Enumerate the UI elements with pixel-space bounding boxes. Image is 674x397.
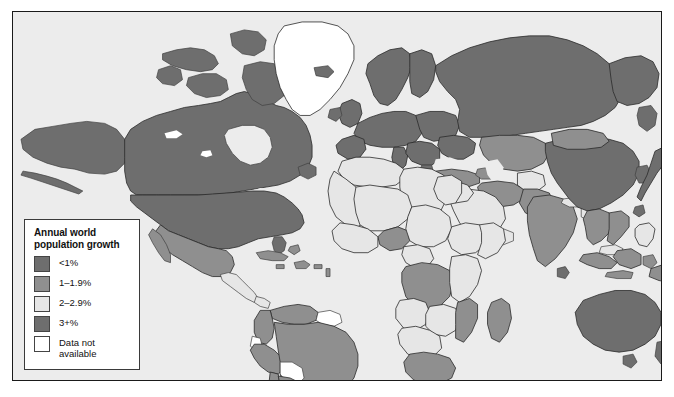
region-siberia-east bbox=[609, 56, 659, 106]
region-tasmania bbox=[623, 354, 637, 368]
region-venezuela bbox=[270, 304, 318, 324]
region-hispaniola bbox=[294, 261, 310, 269]
region-aleutians bbox=[21, 171, 83, 194]
region-mozambique bbox=[456, 298, 478, 342]
region-philippines bbox=[635, 223, 655, 247]
region-kamchatka bbox=[637, 105, 657, 131]
region-mali-niger bbox=[354, 185, 412, 231]
region-lesser-antilles bbox=[326, 269, 330, 277]
region-sulawesi bbox=[643, 255, 657, 269]
legend-item-lt1: <1% bbox=[34, 256, 131, 273]
region-indonesia-sumatra bbox=[579, 253, 617, 269]
region-bahamas bbox=[288, 245, 300, 255]
region-puerto-rico bbox=[314, 265, 322, 269]
region-iberia bbox=[336, 135, 366, 159]
baltic-sea bbox=[396, 96, 416, 110]
region-south-africa bbox=[404, 352, 456, 380]
region-australia bbox=[575, 290, 661, 352]
legend-item-3plus: 3+% bbox=[34, 316, 131, 333]
legend-item-1-19: 1–1.9% bbox=[34, 276, 131, 293]
legend-swatch-3plus bbox=[34, 316, 50, 332]
legend-label-2-29: 2–2.9% bbox=[59, 296, 91, 309]
legend-swatch-1-19 bbox=[34, 276, 50, 292]
region-new-zealand-south bbox=[655, 340, 661, 364]
region-finland bbox=[410, 50, 436, 98]
legend-label-1-19: 1–1.9% bbox=[59, 276, 91, 289]
legend-label-no-data: Data not available bbox=[59, 336, 97, 359]
region-banks-island bbox=[157, 66, 183, 86]
legend-swatch-no-data bbox=[34, 336, 50, 352]
region-victoria-island bbox=[186, 74, 228, 98]
region-ukraine bbox=[438, 135, 476, 159]
region-russia bbox=[436, 36, 621, 137]
region-ireland bbox=[328, 107, 342, 121]
region-madagascar bbox=[488, 298, 512, 342]
region-somalia bbox=[478, 223, 506, 259]
map-legend: Annual worldpopulation growth <1% 1–1.9%… bbox=[24, 219, 140, 370]
legend-swatch-2-29 bbox=[34, 296, 50, 312]
region-balkans bbox=[406, 141, 440, 165]
region-vietnam-laos bbox=[607, 211, 629, 245]
region-indonesia-java bbox=[605, 271, 633, 279]
region-ellesmere bbox=[230, 30, 266, 56]
region-cuba bbox=[256, 251, 288, 261]
region-taiwan bbox=[633, 205, 645, 217]
world-map-figure: .c1 { fill: #6e6e6e; } /* <1% */ .c2 { f… bbox=[0, 0, 674, 397]
region-alaska bbox=[21, 121, 129, 174]
region-kenya-tanzania bbox=[450, 255, 482, 303]
region-afghanistan bbox=[517, 171, 545, 191]
region-mongolia bbox=[551, 129, 609, 149]
region-sri-lanka bbox=[557, 267, 569, 279]
legend-title: Annual worldpopulation growth bbox=[34, 227, 131, 250]
legend-item-2-29: 2–2.9% bbox=[34, 296, 131, 313]
region-angola bbox=[396, 298, 430, 330]
legend-title-line1: Annual world bbox=[34, 227, 96, 238]
region-central-america bbox=[220, 273, 258, 303]
region-sudan-chad bbox=[406, 205, 452, 247]
region-canada bbox=[125, 92, 312, 195]
legend-label-lt1: <1% bbox=[59, 256, 78, 269]
legend-swatch-lt1 bbox=[34, 256, 50, 272]
legend-title-line2: population growth bbox=[34, 239, 120, 250]
region-jamaica bbox=[276, 265, 284, 269]
region-borneo bbox=[613, 249, 641, 269]
region-panama bbox=[254, 296, 270, 308]
legend-item-no-data: Data not available bbox=[34, 336, 131, 359]
legend-label-3plus: 3+% bbox=[59, 316, 78, 329]
